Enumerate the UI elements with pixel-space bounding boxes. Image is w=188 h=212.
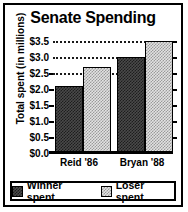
y-tick-label-6: $3.0 <box>7 52 49 63</box>
y-tick-label-4: $2.0 <box>7 84 49 95</box>
y-tick-label-5: $2.5 <box>7 68 49 79</box>
legend-swatch-loser-icon <box>101 186 112 197</box>
y-tick-label-1: $0.5 <box>7 132 49 143</box>
legend-swatch-winner-icon <box>12 186 23 197</box>
chart-frame: Senate Spending $0.0 $0.5 $1.0 $1.5 $2.0… <box>3 3 183 207</box>
y-tick-label-2: $1.0 <box>7 116 49 127</box>
y-tick-label-7: $3.5 <box>7 36 49 47</box>
x-axis-baseline <box>49 151 173 154</box>
bar-bryan88-winner <box>117 57 145 153</box>
y-tick-label-3: $1.5 <box>7 100 49 111</box>
bar-reid86-loser <box>83 67 111 153</box>
bar-bryan88-loser <box>145 41 173 153</box>
x-tick-label-bryan88: Bryan '88 <box>111 157 173 168</box>
legend-label-loser: Loser spent <box>116 179 174 203</box>
chart-legend: Winner spent Loser spent <box>10 181 176 201</box>
legend-item-winner: Winner spent <box>12 179 92 203</box>
y-axis-title: Total spent (in millions) <box>15 11 26 127</box>
legend-label-winner: Winner spent <box>27 179 92 203</box>
x-tick-label-reid86: Reid '86 <box>49 157 109 168</box>
y-tick-label-0: $0.0 <box>7 148 49 159</box>
plot-area <box>53 41 169 153</box>
legend-item-loser: Loser spent <box>101 179 174 203</box>
bar-reid86-winner <box>55 86 83 153</box>
